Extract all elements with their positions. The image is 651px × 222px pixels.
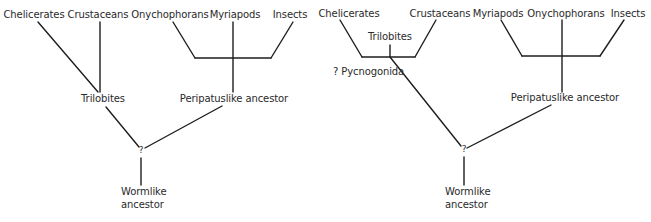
phylogeny-figure: Chelicerates Crustaceans Onychophorans M… (0, 0, 651, 222)
right-branch-chelicerates (340, 20, 362, 57)
left-root-label-line1: Wormlike (121, 186, 166, 198)
right-root-label-line2: ancestor (445, 199, 488, 211)
right-taxon-onychophorans: Onychophorans (527, 8, 604, 20)
left-branch-onychophorans (173, 22, 195, 58)
right-taxon-crustaceans: Crustaceans (410, 8, 471, 20)
right-branch-crustaceans (415, 20, 436, 57)
right-root-label-line1: Wormlike (445, 186, 490, 198)
left-root-label-line2: ancestor (121, 199, 164, 211)
right-branch-myriapods (501, 20, 522, 56)
right-node-trilobites: Trilobites (368, 31, 412, 43)
left-trilobites-to-root (106, 107, 139, 147)
right-taxon-myriapods: Myriapods (473, 8, 524, 20)
right-node-pycnogonida: ? Pycnogonida (333, 66, 404, 78)
left-node-peripatuslike-ancestor: Peripatuslike ancestor (180, 93, 288, 105)
left-node-trilobites: Trilobites (81, 93, 125, 105)
left-taxon-onychophorans: Onychophorans (131, 9, 208, 21)
tree-lines (0, 0, 651, 222)
right-node-peripatuslike-ancestor: Peripatuslike ancestor (511, 92, 619, 104)
left-taxon-myriapods: Myriapods (210, 9, 261, 21)
left-taxon-chelicerates: Chelicerates (3, 9, 64, 21)
right-node-unknown: ? (462, 143, 467, 155)
left-taxon-crustaceans: Crustaceans (68, 9, 129, 21)
left-branch-insects (271, 22, 293, 58)
right-peripatus-to-root (467, 105, 551, 148)
right-taxon-chelicerates: Chelicerates (318, 8, 379, 20)
right-taxon-insects: Insects (611, 8, 646, 20)
left-taxon-insects: Insects (273, 9, 308, 21)
left-node-unknown: ? (139, 144, 144, 156)
left-branch-chelicerates (38, 22, 98, 92)
left-peripatus-to-root (145, 106, 222, 148)
right-branch-insects (600, 20, 624, 56)
